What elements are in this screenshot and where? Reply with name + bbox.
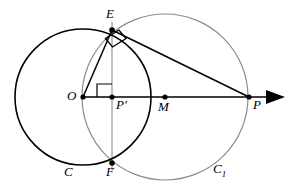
- geometry-canvas: [0, 0, 292, 192]
- label-point-f: F: [106, 165, 114, 178]
- label-circle-c: C: [64, 165, 73, 178]
- point-dot-o: [80, 94, 85, 99]
- label-circle-c1-base: C: [213, 161, 222, 176]
- point-dot-p-prime: [109, 94, 114, 99]
- label-point-p: P: [253, 98, 261, 111]
- point-dot-e: [109, 27, 115, 33]
- label-circle-c1: C1: [213, 162, 226, 179]
- label-circle-c1-subscript: 1: [222, 169, 227, 179]
- label-point-p-prime: P′: [116, 98, 127, 111]
- right-angle-marker-p-prime: [97, 84, 112, 97]
- point-dot-p: [246, 94, 251, 99]
- geometry-figure: O P′ M P E F C C1: [0, 0, 292, 192]
- axis-arrowhead: [266, 90, 285, 104]
- label-point-e: E: [106, 7, 114, 20]
- segment-ep: [112, 30, 249, 97]
- label-point-m: M: [158, 100, 169, 113]
- label-point-o: O: [67, 89, 76, 102]
